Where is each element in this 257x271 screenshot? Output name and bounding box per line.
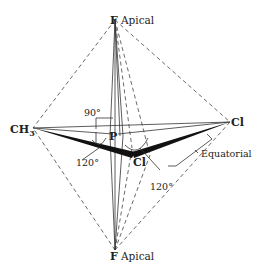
atom-cl-right: Cl — [231, 116, 244, 129]
atom-ch3: CH3 — [10, 123, 35, 138]
atom-f-bottom: F — [110, 250, 118, 263]
label-angle-120-right: 120° — [150, 181, 173, 192]
label-apical-bottom: Apical — [120, 250, 155, 262]
label-angle-120-left: 120° — [76, 157, 99, 168]
label-equatorial: Equatorial — [201, 148, 252, 159]
atom-p: P — [109, 130, 117, 143]
label-angle-90: 90° — [84, 107, 101, 118]
ch-text: CH — [10, 123, 29, 136]
ch3-subscript: 3 — [29, 128, 35, 138]
molecule-diagram: F Apical F Apical CH3 P Cl Cl 90° 120° 1… — [0, 0, 257, 271]
label-apical-top: Apical — [120, 14, 155, 26]
atom-f-top: F — [110, 14, 118, 27]
atom-cl-front: Cl — [133, 156, 146, 169]
